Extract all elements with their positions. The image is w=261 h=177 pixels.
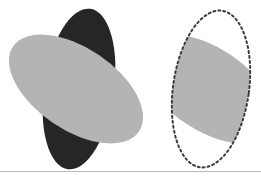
figure-root: Two overlapping ellipses and their inter…: [0, 0, 261, 177]
figure-canvas: [0, 0, 261, 177]
right-panel: [122, 5, 261, 172]
left-panel: [0, 4, 162, 174]
intersection-lens: [122, 13, 261, 166]
